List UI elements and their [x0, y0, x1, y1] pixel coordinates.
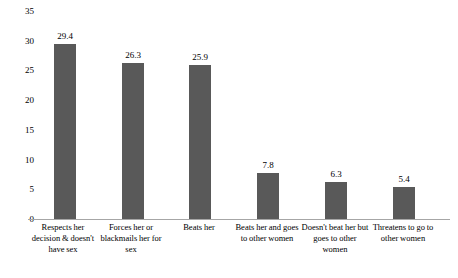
bar-group: 26.3 [99, 0, 167, 219]
bar-group: 5.4 [370, 0, 438, 219]
bar-value-label: 26.3 [125, 51, 141, 60]
bar[interactable] [325, 182, 347, 219]
plot-area: 35 30 25 20 15 10 5 0 29.4 26.3 25.9 [0, 0, 458, 219]
x-axis-labels: Respects her decision & doesn't have sex… [0, 222, 458, 278]
x-axis-baseline [28, 219, 450, 220]
bar-value-label: 29.4 [57, 32, 73, 41]
bar-group: 7.8 [234, 0, 302, 219]
bar[interactable] [122, 63, 144, 219]
bar-group: 6.3 [302, 0, 370, 219]
bar[interactable] [257, 173, 279, 219]
category-label: Threatens to go to other women [369, 222, 437, 244]
bar-group: 25.9 [166, 0, 234, 219]
bar-value-label: 7.8 [262, 161, 273, 170]
bar-value-label: 25.9 [192, 53, 208, 62]
bar[interactable] [393, 187, 415, 219]
bar-chart: 35 30 25 20 15 10 5 0 29.4 26.3 25.9 [0, 0, 458, 278]
category-label: Forces her or blackmails her for sex [97, 222, 165, 255]
category-label: Doesn't beat her but goes to other women [301, 222, 369, 255]
bar[interactable] [54, 44, 76, 219]
category-label: Beats her and goes to other women [233, 222, 301, 244]
bar[interactable] [189, 65, 211, 219]
bar-group: 29.4 [31, 0, 99, 219]
category-label: Respects her decision & doesn't have sex [29, 222, 97, 255]
bar-value-label: 5.4 [398, 175, 409, 184]
bar-value-label: 6.3 [330, 170, 341, 179]
bars-layer: 29.4 26.3 25.9 7.8 6.3 5.4 [0, 0, 458, 219]
category-label: Beats her [165, 222, 233, 233]
